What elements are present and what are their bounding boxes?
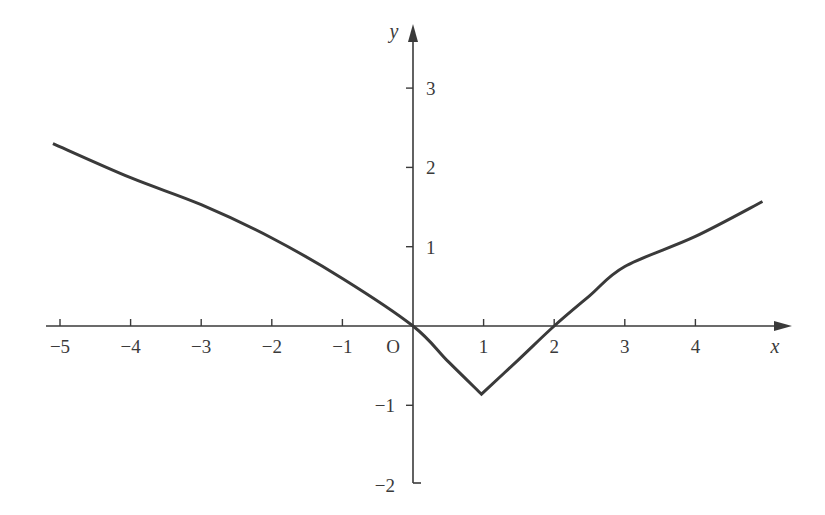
y-tick-label: −2	[375, 475, 395, 496]
y-axis-arrow-icon	[408, 24, 418, 42]
x-tick-label: −1	[332, 336, 352, 357]
origin-label: O	[386, 336, 400, 357]
x-tick-label: 4	[691, 336, 701, 357]
x-tick-label: 1	[479, 336, 489, 357]
x-tick-label: 2	[549, 336, 559, 357]
x-tick-label: 3	[620, 336, 630, 357]
curve-line	[53, 144, 763, 395]
y-tick-label: −1	[375, 395, 395, 416]
chart: −5−4−3−2−11234321−1−2Oxy	[0, 0, 825, 515]
x-axis-arrow-icon	[774, 321, 792, 331]
x-tick-label: −3	[191, 336, 211, 357]
y-tick-label: 2	[426, 157, 436, 178]
y-tick-label: 1	[426, 237, 436, 258]
x-tick-label: −5	[50, 336, 70, 357]
x-tick-label: −2	[262, 336, 282, 357]
y-tick-label: 3	[426, 78, 436, 99]
x-axis-label: x	[770, 335, 780, 357]
y-axis-label: y	[388, 20, 399, 43]
x-tick-label: −4	[120, 336, 141, 357]
